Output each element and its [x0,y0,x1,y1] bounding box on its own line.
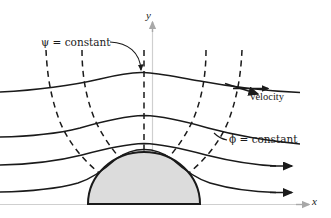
equipotential-line-1 [46,50,110,181]
semicircular-bump [88,152,200,204]
y-axis-label: y [146,10,151,21]
velocity-label: Velocity [249,92,284,103]
streamfunction-label: ψ = constant [41,37,111,48]
potential-label: ϕ = constant [229,134,297,145]
flow-diagram-svg [0,0,331,218]
psi-leader-group [110,42,141,70]
psi-leader-arrow [110,42,141,70]
flow-net-figure: ψ = constant ϕ = constant Velocity y x [0,0,331,218]
x-axis-label: x [312,196,317,207]
streamline-1 [0,72,300,92]
body-group [88,152,200,204]
